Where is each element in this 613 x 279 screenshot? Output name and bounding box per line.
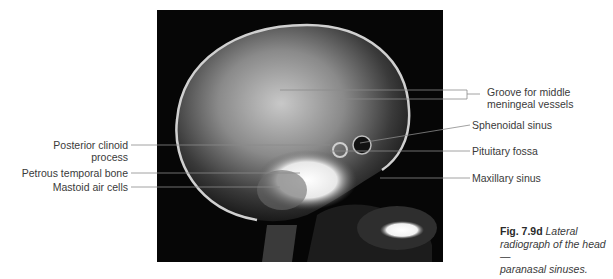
caption-text: radiograph of the head — bbox=[500, 238, 606, 263]
label-petrous-temporal-bone: Petrous temporal bone bbox=[0, 167, 128, 179]
label-posterior-clinoid-process: Posterior clinoid process bbox=[0, 139, 128, 163]
label-line: Pituitary fossa bbox=[472, 145, 538, 157]
label-line: Mastoid air cells bbox=[0, 181, 128, 193]
label-pituitary-fossa: Pituitary fossa bbox=[472, 145, 538, 157]
label-groove-middle-meningeal: Groove for middle meningeal vessels bbox=[487, 86, 573, 110]
label-line: Posterior clinoid bbox=[0, 139, 128, 151]
figure-caption: Fig. 7.9d Lateral radiograph of the head… bbox=[500, 225, 613, 275]
label-maxillary-sinus: Maxillary sinus bbox=[472, 172, 541, 184]
label-line: Sphenoidal sinus bbox=[472, 119, 552, 131]
caption-text: paranasal sinuses. bbox=[500, 263, 588, 275]
figure-number: Fig. 7.9d bbox=[500, 225, 543, 237]
label-line: meningeal vessels bbox=[487, 98, 573, 110]
label-sphenoidal-sinus: Sphenoidal sinus bbox=[472, 119, 552, 131]
label-line: process bbox=[0, 151, 128, 163]
caption-text: Lateral bbox=[546, 225, 578, 237]
label-line: Petrous temporal bone bbox=[0, 167, 128, 179]
label-line: Groove for middle bbox=[487, 86, 573, 98]
label-line: Maxillary sinus bbox=[472, 172, 541, 184]
label-mastoid-air-cells: Mastoid air cells bbox=[0, 181, 128, 193]
